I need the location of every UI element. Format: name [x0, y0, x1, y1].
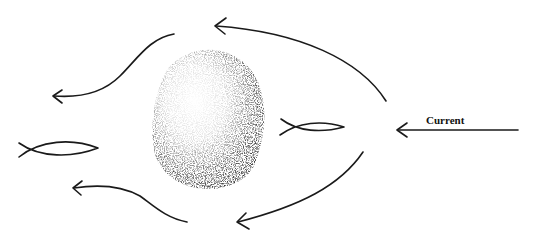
flow-arrow-bottom-right	[237, 152, 363, 229]
flow-arrow-top-left	[53, 34, 174, 103]
fish-eddy-icon	[280, 119, 344, 135]
current-label: Current	[426, 114, 464, 126]
fish-downstream-icon	[19, 142, 98, 157]
flow-arrow-bottom-left	[73, 181, 187, 222]
rock-obstacle	[148, 44, 272, 196]
